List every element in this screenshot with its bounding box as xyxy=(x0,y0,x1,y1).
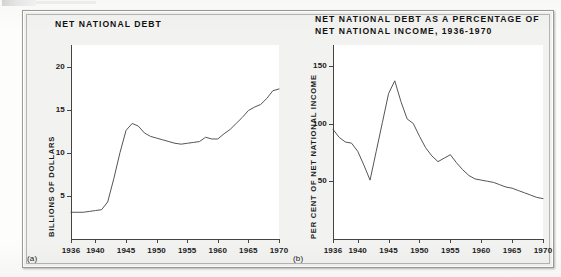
panel-b-title: NET NATIONAL DEBT AS A PERCENTAGE OF NET… xyxy=(315,14,539,37)
y-tick-label: 5 xyxy=(35,191,65,200)
panel-a-title: NET NATIONAL DEBT xyxy=(55,19,162,31)
chart-panel-a: NET NATIONAL DEBT BILLIONS OF DOLLARS 51… xyxy=(23,11,291,269)
figure-root: NET NATIONAL DEBT BILLIONS OF DOLLARS 51… xyxy=(0,0,561,277)
panel-a-letter: (a) xyxy=(27,254,37,263)
x-tick xyxy=(248,239,249,243)
y-tick xyxy=(329,181,333,182)
panel-b-letter: (b) xyxy=(293,254,303,263)
x-tick xyxy=(333,239,334,243)
x-tick xyxy=(543,239,544,243)
panel-a-plot-area xyxy=(71,45,279,239)
x-tick xyxy=(358,239,359,243)
x-tick xyxy=(279,239,280,243)
x-tick xyxy=(218,239,219,243)
y-tick-label: 50 xyxy=(297,176,327,185)
panel-b-y-axis-label: PER CENT OF NET NATIONAL INCOME xyxy=(309,74,318,239)
x-tick xyxy=(450,239,451,243)
x-tick xyxy=(512,239,513,243)
x-tick xyxy=(481,239,482,243)
x-tick xyxy=(126,239,127,243)
x-tick xyxy=(389,239,390,243)
y-tick-label: 150 xyxy=(297,61,327,70)
x-tick-label: 1965 xyxy=(496,246,528,255)
x-tick-label: 1965 xyxy=(232,246,264,255)
x-tick-label: 1940 xyxy=(342,246,374,255)
chart-panel-b: NET NATIONAL DEBT AS A PERCENTAGE OF NET… xyxy=(291,11,555,269)
panel-b-data-line xyxy=(333,45,543,239)
y-tick-label: 15 xyxy=(35,105,65,114)
panel-a-data-line xyxy=(71,45,279,239)
y-tick-label: 10 xyxy=(35,148,65,157)
x-tick-label: 1950 xyxy=(403,246,435,255)
y-axis-line xyxy=(71,45,72,240)
x-tick-label: 1945 xyxy=(373,246,405,255)
scan-artifact-top xyxy=(2,0,36,6)
figure-border: NET NATIONAL DEBT BILLIONS OF DOLLARS 51… xyxy=(22,10,554,268)
y-tick xyxy=(67,67,71,68)
x-tick-label: 1960 xyxy=(465,246,497,255)
x-tick-label: 1970 xyxy=(527,246,559,255)
y-tick xyxy=(329,66,333,67)
x-tick-label: 1960 xyxy=(202,246,234,255)
y-tick xyxy=(67,153,71,154)
x-tick xyxy=(187,239,188,243)
x-tick xyxy=(71,239,72,243)
panel-b-plot-area xyxy=(333,45,543,239)
x-tick-label: 1955 xyxy=(171,246,203,255)
y-tick-label: 100 xyxy=(297,119,327,128)
y-tick-label: 20 xyxy=(35,62,65,71)
x-tick xyxy=(95,239,96,243)
x-tick xyxy=(157,239,158,243)
x-tick-label: 1950 xyxy=(141,246,173,255)
y-tick xyxy=(329,124,333,125)
x-tick-label: 1940 xyxy=(79,246,111,255)
x-tick-label: 1945 xyxy=(110,246,142,255)
y-axis-line xyxy=(333,45,334,240)
y-tick xyxy=(67,196,71,197)
y-tick xyxy=(67,110,71,111)
scan-artifact-top-secondary xyxy=(36,1,96,4)
x-tick xyxy=(419,239,420,243)
x-tick-label: 1955 xyxy=(434,246,466,255)
